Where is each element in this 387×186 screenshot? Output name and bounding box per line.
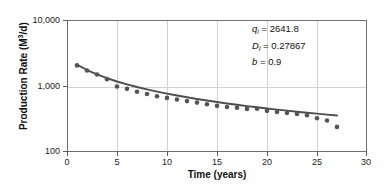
annotation-Di: Di = 0.27867	[252, 39, 306, 56]
xticklabel-30: 30	[351, 157, 381, 168]
xticklabel-10: 10	[152, 157, 182, 168]
xtick-30	[366, 152, 367, 156]
annotation-qi: qi = 2641.8	[252, 22, 306, 39]
y-axis-title-text: Production Rate (M3/d)	[18, 22, 29, 130]
xticklabel-25: 25	[302, 157, 332, 168]
fit-parameter-annotation: qi = 2641.8 Di = 0.27867 b = 0.9	[252, 22, 306, 69]
x-axis-title: Time (years)	[67, 169, 367, 180]
xticklabel-0: 0	[52, 157, 82, 168]
annotation-b: b = 0.9	[252, 55, 306, 69]
xtick-25	[317, 152, 318, 156]
gridline-x-25	[317, 21, 318, 151]
gridline-x-10	[167, 21, 168, 151]
ytick-1000	[63, 86, 68, 87]
xtick-0	[67, 152, 68, 156]
y-axis-title: Production Rate (M3/d)	[17, 1, 29, 151]
xticklabel-15: 15	[202, 157, 232, 168]
xtick-15	[217, 152, 218, 156]
gridline-y-1000	[68, 87, 366, 88]
ytick-10000	[63, 20, 68, 21]
xtick-20	[267, 152, 268, 156]
xtick-5	[117, 152, 118, 156]
annotation-b-value: 0.9	[268, 56, 281, 67]
plot-area	[67, 20, 367, 152]
decline-curve-chart: 10,000 1,000 100 0 5 10 15 20 25 30 Time…	[0, 0, 387, 186]
annotation-qi-value: 2641.8	[270, 23, 299, 34]
gridline-x-15	[217, 21, 218, 151]
xticklabel-20: 20	[252, 157, 282, 168]
gridline-x-5	[117, 21, 118, 151]
xtick-10	[167, 152, 168, 156]
annotation-Di-value: 0.27867	[271, 40, 305, 51]
xticklabel-5: 5	[102, 157, 132, 168]
